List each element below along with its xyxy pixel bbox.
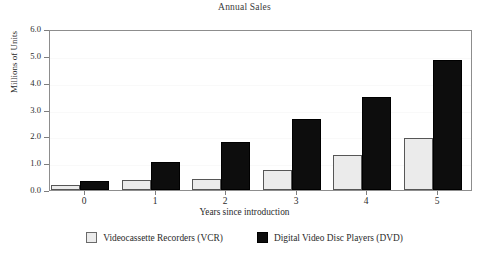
grid-line <box>50 58 471 59</box>
grid-line <box>50 112 471 113</box>
x-axis-tick-label: 2 <box>205 196 245 206</box>
y-axis-title: Millions of Units <box>9 0 19 132</box>
legend-label: Videocassette Recorders (VCR) <box>103 233 223 243</box>
x-axis-tick-label: 4 <box>346 196 386 206</box>
x-axis-tick-mark <box>437 191 438 195</box>
y-axis-tick-label: 3.0 <box>30 105 41 115</box>
x-axis-tick-label: 3 <box>276 196 316 206</box>
bar-dvd-year-4 <box>362 97 391 190</box>
x-axis-tick-mark <box>155 191 156 195</box>
x-axis-tick-mark <box>84 191 85 195</box>
y-axis-tick-label: 1.0 <box>30 158 41 168</box>
chart-title: Annual Sales <box>0 2 489 12</box>
x-axis-tick-label: 1 <box>135 196 175 206</box>
y-axis-tick-label: 6.0 <box>30 24 41 34</box>
bar-vcr-year-4 <box>333 155 362 190</box>
legend-entry-vcr: Videocassette Recorders (VCR) <box>86 232 223 243</box>
x-axis-tick-label: 0 <box>64 196 104 206</box>
grid-line <box>50 85 471 86</box>
y-axis-tick-label: 0.0 <box>30 185 41 195</box>
bar-vcr-year-1 <box>122 180 151 190</box>
x-axis-tick-label: 5 <box>417 196 457 206</box>
bar-dvd-year-5 <box>433 60 462 190</box>
y-axis-tick-label: 5.0 <box>30 51 41 61</box>
bar-vcr-year-3 <box>263 170 292 190</box>
y-axis-tick-mark <box>44 111 49 112</box>
bar-dvd-year-0 <box>80 181 109 190</box>
legend-swatch-icon <box>86 232 97 243</box>
bar-vcr-year-5 <box>404 138 433 190</box>
y-axis-tick-mark <box>44 164 49 165</box>
x-axis-tick-mark <box>296 191 297 195</box>
y-axis-tick-mark <box>44 84 49 85</box>
legend-entry-dvd: Digital Video Disc Players (DVD) <box>257 232 403 243</box>
plot-area <box>49 30 472 191</box>
x-axis-tick-mark <box>225 191 226 195</box>
y-axis-tick-mark <box>44 137 49 138</box>
plot-inner <box>50 31 471 190</box>
bar-dvd-year-1 <box>151 162 180 190</box>
x-axis-tick-mark <box>366 191 367 195</box>
bar-vcr-year-2 <box>192 179 221 190</box>
chart-legend: Videocassette Recorders (VCR)Digital Vid… <box>0 232 489 243</box>
y-axis-tick-mark <box>44 30 49 31</box>
legend-swatch-icon <box>257 232 268 243</box>
y-axis-tick-label: 4.0 <box>30 78 41 88</box>
y-axis-tick-label: 2.0 <box>30 131 41 141</box>
bar-vcr-year-0 <box>51 185 80 190</box>
bar-chart-figure: Annual Sales Millions of Units 0.01.02.0… <box>0 0 489 257</box>
bar-dvd-year-2 <box>221 142 250 190</box>
legend-label: Digital Video Disc Players (DVD) <box>274 233 403 243</box>
x-axis-title: Years since introduction <box>0 207 489 217</box>
bar-dvd-year-3 <box>292 119 321 190</box>
y-axis-tick-mark <box>44 57 49 58</box>
